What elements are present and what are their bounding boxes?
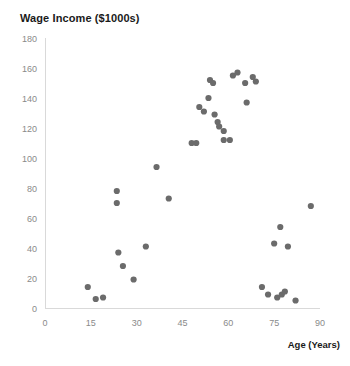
data-points (85, 69, 314, 303)
y-axis-ticks: 020406080100120140160180 (22, 34, 37, 314)
data-point (93, 296, 99, 302)
y-tick-label: 120 (22, 124, 37, 134)
data-point (100, 294, 106, 300)
y-tick-label: 140 (22, 94, 37, 104)
data-point (153, 164, 159, 170)
axes (45, 38, 320, 308)
y-tick-label: 160 (22, 64, 37, 74)
data-point (131, 276, 137, 282)
x-axis-ticks: 0153045607590 (42, 318, 325, 328)
y-tick-label: 0 (32, 304, 37, 314)
data-point (196, 104, 202, 110)
x-tick-label: 30 (132, 318, 142, 328)
x-tick-label: 90 (315, 318, 325, 328)
data-point (115, 249, 121, 255)
data-point (211, 111, 217, 117)
x-tick-label: 15 (86, 318, 96, 328)
data-point (114, 188, 120, 194)
data-point (285, 243, 291, 249)
data-point (210, 80, 216, 86)
data-point (308, 203, 314, 209)
data-point (277, 224, 283, 230)
data-point (271, 240, 277, 246)
data-point (244, 99, 250, 105)
data-point (120, 263, 126, 269)
data-point (234, 69, 240, 75)
data-point (242, 80, 248, 86)
data-point (216, 123, 222, 129)
y-tick-label: 60 (27, 214, 37, 224)
data-point (253, 78, 259, 84)
y-tick-label: 40 (27, 244, 37, 254)
data-point (85, 284, 91, 290)
axis-lines (45, 38, 320, 308)
x-tick-label: 45 (177, 318, 187, 328)
data-point (265, 291, 271, 297)
plot-area: 020406080100120140160180 0153045607590 A… (0, 0, 350, 366)
data-point (292, 297, 298, 303)
y-tick-label: 80 (27, 184, 37, 194)
x-axis-title: Age (Years) (288, 339, 340, 350)
data-point (259, 284, 265, 290)
scatter-chart: Wage Income ($1000s) 0204060801001201401… (0, 0, 350, 366)
x-tick-label: 0 (42, 318, 47, 328)
data-point (143, 243, 149, 249)
x-tick-label: 60 (223, 318, 233, 328)
data-point (201, 108, 207, 114)
data-point (205, 95, 211, 101)
data-point (193, 140, 199, 146)
y-tick-label: 180 (22, 34, 37, 44)
x-tick-label: 75 (269, 318, 279, 328)
data-point (282, 288, 288, 294)
data-point (221, 128, 227, 134)
y-tick-label: 100 (22, 154, 37, 164)
y-tick-label: 20 (27, 274, 37, 284)
data-point (227, 137, 233, 143)
data-point (166, 195, 172, 201)
data-point (221, 137, 227, 143)
data-point (114, 200, 120, 206)
